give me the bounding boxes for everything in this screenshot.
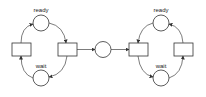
- right-net: ready wait: [129, 7, 193, 86]
- left-wait-label: wait: [35, 63, 47, 69]
- right-net-left-transition: [129, 43, 148, 56]
- channel-place: [95, 42, 111, 58]
- right-wait-place: [153, 70, 169, 86]
- arc-wait-to-left-t: [21, 56, 33, 78]
- right-ready-label: ready: [153, 7, 168, 13]
- arc-wait-to-right-t: [169, 56, 183, 78]
- left-ready-label: ready: [33, 7, 48, 13]
- petri-net-diagram: ready wait ready wait: [0, 0, 206, 97]
- right-net-right-transition: [174, 43, 193, 56]
- left-ready-place: [33, 15, 49, 31]
- arc-ready-to-right-t: [49, 23, 66, 43]
- arc-left-t-to-wait: [138, 56, 153, 77]
- right-ready-place: [153, 15, 169, 31]
- arc-right-t-to-ready: [169, 24, 183, 43]
- arc-left-t-to-ready: [21, 24, 33, 43]
- arc-right-t-to-wait: [49, 56, 67, 77]
- arc-ready-to-left-t: [138, 23, 153, 43]
- left-wait-place: [33, 70, 49, 86]
- right-wait-label: wait: [155, 63, 167, 69]
- left-net-right-transition: [58, 43, 77, 56]
- left-net: ready wait: [12, 7, 77, 86]
- left-net-left-transition: [12, 43, 31, 56]
